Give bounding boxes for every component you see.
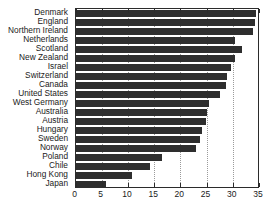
- tick-mark-top: [102, 9, 103, 13]
- tick-mark-top: [76, 9, 77, 13]
- category-label: Sweden: [0, 134, 71, 142]
- bar-row: [76, 145, 261, 152]
- tick-mark-top: [233, 9, 234, 13]
- x-tick-label: 5: [98, 189, 103, 199]
- bar-row: [76, 154, 261, 161]
- category-label: Hungary: [0, 125, 71, 133]
- bar: [76, 46, 243, 53]
- tick-mark-top: [259, 9, 260, 13]
- bar: [76, 127, 202, 134]
- bar: [76, 172, 133, 179]
- bar-row: [76, 91, 261, 98]
- x-tick-label: 25: [201, 189, 210, 199]
- bar-row: [76, 28, 261, 35]
- bar: [76, 82, 226, 89]
- bar: [76, 37, 235, 44]
- category-label: Norway: [0, 143, 71, 151]
- tick-mark: [76, 183, 77, 187]
- category-label: Northern Ireland: [0, 26, 71, 34]
- tick-mark: [259, 183, 260, 187]
- bar: [76, 109, 208, 116]
- tick-mark-top: [154, 9, 155, 13]
- x-tick-label: 35: [253, 189, 262, 199]
- x-tick-label: 0: [72, 189, 77, 199]
- bar-row: [76, 19, 261, 26]
- category-label: Switzerland: [0, 71, 71, 79]
- bar-row: [76, 55, 261, 62]
- plot-area: [75, 8, 260, 188]
- tick-mark: [233, 183, 234, 187]
- category-label: Netherlands: [0, 35, 71, 43]
- category-label: Poland: [0, 152, 71, 160]
- category-label: Australia: [0, 107, 71, 115]
- tick-mark-top: [180, 9, 181, 13]
- bar: [76, 28, 254, 35]
- category-label: New Zealand: [0, 53, 71, 61]
- tick-mark-top: [207, 9, 208, 13]
- tick-mark-top: [128, 9, 129, 13]
- bar-row: [76, 163, 261, 170]
- bar-row: [76, 46, 261, 53]
- bar: [76, 64, 231, 71]
- bar-row: [76, 82, 261, 89]
- category-label: Austria: [0, 116, 71, 124]
- category-label: Scotland: [0, 44, 71, 52]
- bar-row: [76, 73, 261, 80]
- bar: [76, 91, 220, 98]
- bar-row: [76, 100, 261, 107]
- bar-row: [76, 64, 261, 71]
- bar-row: [76, 109, 261, 116]
- x-tick-label: 15: [148, 189, 157, 199]
- bar-row: [76, 37, 261, 44]
- bar: [76, 163, 151, 170]
- category-axis-labels: DenmarkEnglandNorthern IrelandNetherland…: [0, 8, 71, 188]
- category-label: Denmark: [0, 8, 71, 16]
- category-label: Chile: [0, 161, 71, 169]
- category-label: Canada: [0, 80, 71, 88]
- category-label: Japan: [0, 179, 71, 187]
- bar: [76, 154, 163, 161]
- tick-mark: [154, 183, 155, 187]
- x-axis-tick-labels: 05101520253035: [75, 189, 260, 203]
- bar-row: [76, 172, 261, 179]
- x-tick-label: 20: [175, 189, 184, 199]
- bar: [76, 118, 207, 125]
- bar: [76, 73, 228, 80]
- bar-row: [76, 118, 261, 125]
- tick-mark: [102, 183, 103, 187]
- tick-mark: [180, 183, 181, 187]
- bar: [76, 19, 256, 26]
- bar: [76, 100, 209, 107]
- tick-mark: [207, 183, 208, 187]
- category-label: England: [0, 17, 71, 25]
- bar-row: [76, 127, 261, 134]
- bar-chart: DenmarkEnglandNorthern IrelandNetherland…: [0, 0, 273, 209]
- category-label: Israel: [0, 62, 71, 70]
- x-tick-label: 10: [122, 189, 131, 199]
- x-tick-label: 30: [227, 189, 236, 199]
- category-label: Hong Kong: [0, 170, 71, 178]
- category-label: United States: [0, 89, 71, 97]
- bar: [76, 55, 235, 62]
- tick-mark: [128, 183, 129, 187]
- bar: [76, 145, 196, 152]
- bar-row: [76, 136, 261, 143]
- bar: [76, 136, 201, 143]
- category-label: West Germany: [0, 98, 71, 106]
